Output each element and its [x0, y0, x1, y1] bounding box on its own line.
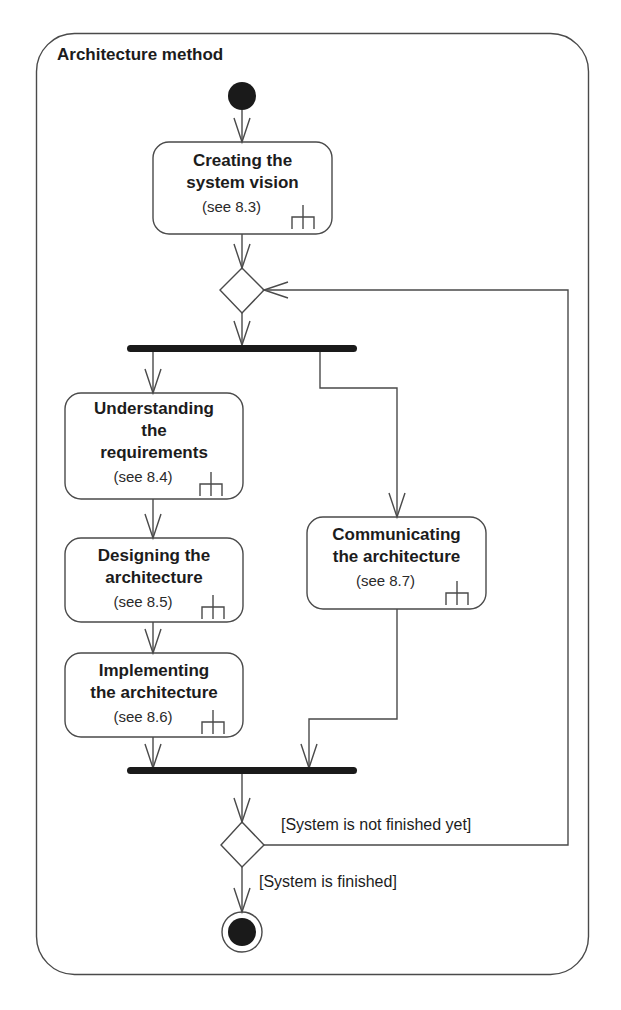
action-designing-architecture: Designing the architecture (see 8.5) [65, 545, 243, 612]
join-bar [127, 767, 357, 774]
merge-node [220, 268, 264, 313]
guard-finished: [System is finished] [259, 873, 397, 891]
action-name-line: Implementing [99, 660, 210, 682]
fork-bar [127, 345, 357, 352]
initial-node [228, 82, 256, 110]
final-node [228, 918, 256, 946]
section-reference: (see 8.4) [113, 467, 172, 487]
action-name-line: architecture [105, 567, 202, 589]
action-name-line: Communicating [332, 524, 460, 546]
section-reference: (see 8.6) [113, 707, 172, 727]
action-name-line: requirements [100, 442, 208, 464]
action-name-line: the [141, 420, 167, 442]
action-implementing-architecture: Implementing the architecture (see 8.6) [65, 660, 243, 727]
action-understanding-requirements: Understanding the requirements (see 8.4) [65, 398, 243, 487]
section-reference: (see 8.5) [113, 592, 172, 612]
guard-not-finished: [System is not finished yet] [281, 816, 471, 834]
action-name-line: Creating the [193, 150, 292, 172]
diagram-title: Architecture method [57, 45, 223, 65]
action-name-line: Understanding [94, 398, 214, 420]
action-name-line: the architecture [333, 546, 461, 568]
section-reference: (see 8.3) [202, 197, 261, 217]
section-reference: (see 8.7) [356, 571, 415, 591]
action-name-line: system vision [186, 172, 298, 194]
action-creating-system-vision: Creating the system vision (see 8.3) [153, 150, 332, 217]
action-communicating-architecture: Communicating the architecture (see 8.7) [307, 524, 486, 591]
action-name-line: the architecture [90, 682, 218, 704]
action-name-line: Designing the [98, 545, 210, 567]
decision-node [221, 822, 264, 867]
